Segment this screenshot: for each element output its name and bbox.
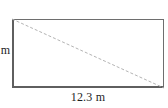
diagonal-dashed-line [12, 19, 164, 88]
geometry-figure: m 12.3 m [0, 0, 168, 108]
width-label: 12.3 m [12, 90, 164, 104]
diagonal-line-stroke [12, 19, 164, 88]
height-label: m [0, 43, 10, 57]
